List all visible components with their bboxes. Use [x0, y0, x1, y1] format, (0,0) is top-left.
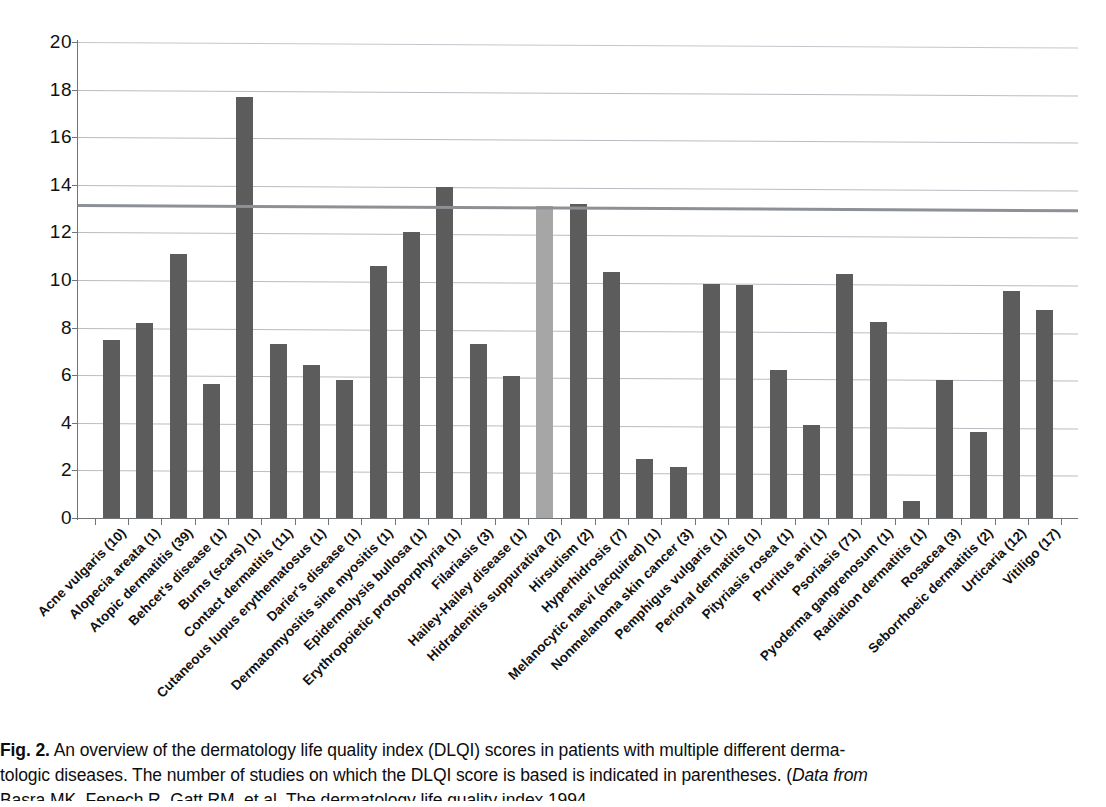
y-axis-tick-label: 18 [38, 80, 72, 99]
y-axis-tick-label: 10 [38, 270, 72, 289]
y-axis-tick-label: 2 [38, 460, 72, 479]
bar [403, 232, 420, 518]
y-axis-tick-label: 12 [38, 222, 72, 241]
y-axis-tick-mark [72, 423, 78, 424]
caption-line-3: Basra MK, Fenech R, Gatt RM, et al. The … [0, 788, 1106, 801]
y-axis-tick-mark [72, 280, 78, 281]
bar [270, 344, 287, 518]
y-axis-tick-label: 8 [38, 318, 72, 337]
y-axis-tick-mark [72, 470, 78, 471]
y-axis-tick-label: 6 [38, 365, 72, 384]
y-axis-tick-mark [72, 137, 78, 138]
y-axis-tick-labels: 02468101214161820 [30, 42, 72, 518]
bar [703, 284, 720, 518]
bar [1036, 310, 1053, 518]
figure-page: 02468101214161820 Acne vulgaris (10)Alop… [0, 0, 1106, 807]
y-axis-tick-mark [72, 232, 78, 233]
bar [903, 501, 920, 518]
bar [236, 97, 253, 518]
figure-caption: Fig. 2. An overview of the dermatology l… [0, 738, 1106, 801]
bar [303, 365, 320, 519]
caption-text-3: Basra MK, Fenech R, Gatt RM, et al. The … [0, 790, 587, 801]
bar [503, 376, 520, 518]
figure-number: Fig. 2. [0, 740, 50, 760]
bar [836, 274, 853, 518]
bar [970, 432, 987, 518]
bar [736, 285, 753, 518]
bar [336, 380, 353, 518]
bar [636, 459, 653, 519]
bar [603, 272, 620, 518]
y-axis-tick-label: 20 [38, 32, 72, 51]
bar [536, 206, 553, 518]
x-axis-category-labels: Acne vulgaris (10)Alopecia areata (1)Ato… [0, 524, 1106, 719]
y-axis-tick-mark [72, 90, 78, 91]
y-axis-tick-label: 4 [38, 413, 72, 432]
y-axis-tick-mark [72, 42, 78, 43]
bar [936, 380, 953, 518]
bar [136, 323, 153, 518]
y-axis-tick-label: 16 [38, 127, 72, 146]
y-axis-tick-mark [72, 328, 78, 329]
bar-series [78, 42, 1078, 518]
caption-line-1: Fig. 2. An overview of the dermatology l… [0, 738, 1106, 763]
bar [470, 344, 487, 518]
bar [170, 254, 187, 518]
y-axis-tick-label: 14 [38, 175, 72, 194]
bar [670, 467, 687, 518]
bar [370, 266, 387, 518]
y-axis-tick-mark [72, 518, 78, 519]
caption-text-2: tologic diseases. The number of studies … [0, 765, 792, 785]
caption-source-italic: Data from [792, 765, 868, 785]
bar [770, 370, 787, 518]
y-axis-tick-mark [72, 185, 78, 186]
bar [203, 384, 220, 518]
bar [436, 187, 453, 518]
bar [803, 425, 820, 518]
bar [870, 322, 887, 518]
caption-text-1: An overview of the dermatology life qual… [54, 740, 846, 760]
y-axis-tick-mark [72, 375, 78, 376]
bar [103, 340, 120, 519]
caption-line-2: tologic diseases. The number of studies … [0, 763, 1106, 788]
bar [1003, 291, 1020, 518]
bar [570, 204, 587, 518]
